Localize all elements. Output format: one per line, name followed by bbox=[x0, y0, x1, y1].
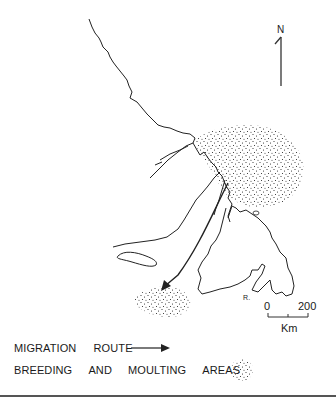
legend-word: MIGRATION bbox=[14, 342, 76, 354]
legend-breeding-areas: BREEDING AND MOULTING AREAS bbox=[14, 364, 240, 376]
breeding-area-south bbox=[135, 287, 190, 318]
breeding-area-north bbox=[195, 125, 303, 207]
scale-bar bbox=[268, 313, 308, 317]
legend-word: ROUTE bbox=[94, 342, 133, 354]
bottom-divider bbox=[0, 395, 336, 397]
north-label: N bbox=[277, 24, 284, 35]
scale-unit: Km bbox=[281, 322, 298, 334]
coastline-labrador bbox=[89, 19, 195, 143]
coastline-gulf-north bbox=[113, 172, 220, 247]
legend-word: AND bbox=[88, 364, 112, 376]
coastline-strait bbox=[150, 143, 193, 178]
legend-word: MOULTING bbox=[128, 364, 186, 376]
island-newfoundland bbox=[198, 206, 294, 296]
legend-word: AREAS bbox=[202, 364, 240, 376]
scale-start: 0 bbox=[264, 300, 270, 312]
islet bbox=[253, 211, 259, 215]
legend-migration-route: MIGRATION ROUTE bbox=[14, 342, 133, 354]
island-anticosti bbox=[117, 252, 156, 266]
legend-word: BREEDING bbox=[14, 364, 72, 376]
scale-end: 200 bbox=[298, 300, 316, 312]
place-label: R. bbox=[243, 294, 250, 301]
north-arrow-icon bbox=[275, 37, 281, 86]
arrow-icon bbox=[131, 344, 170, 352]
